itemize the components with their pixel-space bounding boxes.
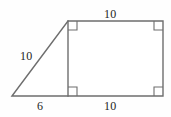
trapezoid-fill bbox=[12, 21, 163, 96]
geometry-figure: 10 10 6 10 bbox=[0, 0, 171, 117]
dimension-label-triangle-base: 6 bbox=[37, 100, 43, 112]
dimension-label-top: 10 bbox=[104, 8, 116, 20]
dimension-label-bottom: 10 bbox=[104, 100, 116, 112]
dimension-label-hypotenuse: 10 bbox=[20, 50, 32, 62]
